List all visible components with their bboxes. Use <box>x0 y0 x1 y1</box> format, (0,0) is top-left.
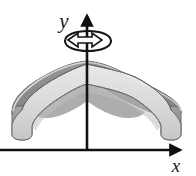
solid-of-revolution <box>12 61 181 140</box>
y-axis-label: y <box>57 9 69 33</box>
surface-of-revolution-figure: y x <box>0 0 196 176</box>
x-axis-label: x <box>171 155 181 176</box>
revolution-arrowhead <box>68 33 102 47</box>
diagram-canvas: y x <box>0 0 196 176</box>
